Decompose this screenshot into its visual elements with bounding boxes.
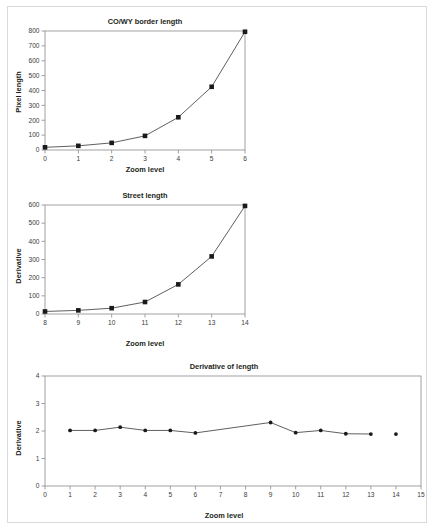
- x-tick-label: 8: [244, 491, 248, 498]
- x-tick-label: 9: [76, 319, 80, 326]
- axis-lines-group: [45, 376, 421, 486]
- x-tick-label: 7: [219, 491, 223, 498]
- x-tick-label: 13: [208, 319, 216, 326]
- plot-area-box: [45, 31, 245, 150]
- chart-title: Derivative of length: [190, 362, 259, 371]
- chart-panel-derivative-of-length: Derivative of length Zoom level Derivati…: [0, 356, 434, 524]
- data-point-marker-detached: [394, 432, 398, 436]
- y-tick-label: 0: [36, 482, 40, 489]
- data-point-marker: [143, 300, 148, 305]
- series-line: [45, 32, 245, 148]
- y-tick-label: 2: [36, 427, 40, 434]
- chart-svg-1: CO/WY border length Zoom level Pixel len…: [0, 6, 434, 178]
- x-tick-label: 13: [367, 491, 375, 498]
- data-point-marker: [76, 308, 81, 313]
- axis-lines-group: [45, 31, 245, 150]
- data-series-group: [43, 204, 248, 314]
- x-tick-label: 15: [417, 491, 425, 498]
- x-tick-label: 3: [143, 155, 147, 162]
- x-tick-label: 12: [342, 491, 350, 498]
- x-tick-label: 0: [43, 491, 47, 498]
- x-axis-label: Zoom level: [126, 339, 165, 348]
- series-line: [70, 422, 371, 434]
- x-tick-label: 6: [243, 155, 247, 162]
- y-tick-label: 600: [28, 57, 39, 64]
- x-tick-label: 3: [118, 491, 122, 498]
- y-tick-label: 0: [36, 146, 40, 153]
- data-point-marker: [93, 429, 97, 433]
- y-tick-label: 4: [36, 372, 40, 379]
- data-point-marker: [76, 144, 81, 149]
- x-tick-label: 5: [210, 155, 214, 162]
- x-tick-label: 1: [76, 155, 80, 162]
- y-tick-label: 200: [28, 117, 39, 124]
- y-tick-label: 1: [36, 455, 40, 462]
- data-point-marker: [319, 429, 323, 433]
- x-tick-label: 2: [93, 491, 97, 498]
- y-tick-label: 600: [28, 201, 39, 208]
- data-point-marker: [243, 204, 248, 209]
- data-point-marker: [176, 282, 181, 287]
- data-series-group: [68, 421, 398, 436]
- data-point-marker: [269, 421, 273, 425]
- y-tick-label: 100: [28, 131, 39, 138]
- series-line: [45, 206, 245, 312]
- data-point-marker: [109, 141, 114, 146]
- data-point-marker: [43, 145, 48, 150]
- chart-svg-3: Derivative of length Zoom level Derivati…: [0, 356, 434, 524]
- data-point-marker: [109, 306, 114, 311]
- x-tick-label: 10: [108, 319, 116, 326]
- axis-ticks-group: 0100200300400500600891011121314: [28, 201, 249, 326]
- data-series-group: [43, 29, 248, 149]
- y-tick-label: 200: [28, 274, 39, 281]
- y-tick-label: 300: [28, 256, 39, 263]
- y-axis-label: Derivative: [14, 248, 23, 283]
- data-point-marker: [143, 134, 148, 139]
- data-point-marker: [209, 254, 214, 259]
- chart-panel-street-length: Street length Zoom level Derivative 0100…: [0, 180, 434, 352]
- plot-area-box: [45, 205, 245, 314]
- x-tick-label: 2: [110, 155, 114, 162]
- x-tick-label: 1: [68, 491, 72, 498]
- data-point-marker: [209, 84, 214, 89]
- y-tick-label: 0: [36, 310, 40, 317]
- x-tick-label: 14: [241, 319, 249, 326]
- x-axis-label: Zoom level: [205, 511, 244, 520]
- data-point-marker: [176, 115, 181, 120]
- x-tick-label: 11: [317, 491, 324, 498]
- data-point-marker: [168, 429, 172, 433]
- data-point-marker: [369, 432, 373, 436]
- x-tick-label: 4: [143, 491, 147, 498]
- y-axis-label: Derivative: [14, 420, 23, 455]
- chart-panel-co-wy-border-length: CO/WY border length Zoom level Pixel len…: [0, 6, 434, 178]
- data-point-marker: [294, 431, 298, 435]
- data-point-marker: [118, 425, 122, 429]
- y-tick-label: 400: [28, 238, 39, 245]
- y-tick-label: 800: [28, 27, 39, 34]
- data-point-marker: [344, 432, 348, 436]
- y-tick-label: 300: [28, 102, 39, 109]
- y-axis-label: Pixel length: [14, 71, 23, 113]
- axis-ticks-group: 012340123456789101112131415: [36, 372, 425, 498]
- plot-area-box: [45, 376, 421, 486]
- x-tick-label: 11: [142, 319, 149, 326]
- chart-title: CO/WY border length: [108, 17, 183, 26]
- x-tick-label: 5: [168, 491, 172, 498]
- chart-title: Street length: [122, 191, 168, 200]
- x-tick-label: 4: [176, 155, 180, 162]
- x-tick-label: 6: [194, 491, 198, 498]
- data-point-marker: [143, 429, 147, 433]
- x-tick-label: 8: [43, 319, 47, 326]
- axis-lines-group: [45, 205, 245, 314]
- y-tick-label: 500: [28, 72, 39, 79]
- x-tick-label: 12: [175, 319, 183, 326]
- data-point-marker: [68, 429, 72, 433]
- y-tick-label: 500: [28, 219, 39, 226]
- x-tick-label: 9: [269, 491, 273, 498]
- data-point-marker: [194, 431, 198, 435]
- x-axis-label: Zoom level: [126, 165, 165, 174]
- y-tick-label: 700: [28, 42, 39, 49]
- x-tick-label: 14: [392, 491, 400, 498]
- y-tick-label: 3: [36, 400, 40, 407]
- figure-container: CO/WY border length Zoom level Pixel len…: [0, 0, 434, 530]
